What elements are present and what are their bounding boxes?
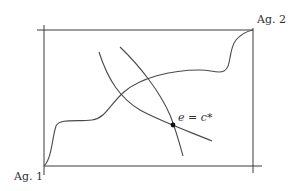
indifference-curve-b xyxy=(120,47,183,156)
equilibrium-label: e = c* xyxy=(178,111,213,124)
edgeworth-box-diagram: e = c* Ag. 2 Ag. 1 xyxy=(0,0,294,191)
agent1-label: Ag. 1 xyxy=(13,170,43,183)
indifference-curve-a xyxy=(99,52,212,141)
equilibrium-dot xyxy=(171,123,176,128)
agent2-label: Ag. 2 xyxy=(256,13,286,26)
contract-curve xyxy=(44,30,253,166)
